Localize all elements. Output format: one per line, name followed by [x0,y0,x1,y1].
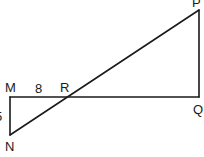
point-label-r: R [60,80,69,95]
point-label-p: P [192,0,201,10]
length-label-mn: 5 [0,109,2,124]
point-label-q: Q [193,102,203,117]
length-label-mr: 8 [35,81,42,96]
point-label-m: M [5,80,16,95]
geometry-diagram: P Q M R N 8 5 [0,0,204,157]
point-label-n: N [5,139,14,154]
segment-pn [10,10,199,135]
